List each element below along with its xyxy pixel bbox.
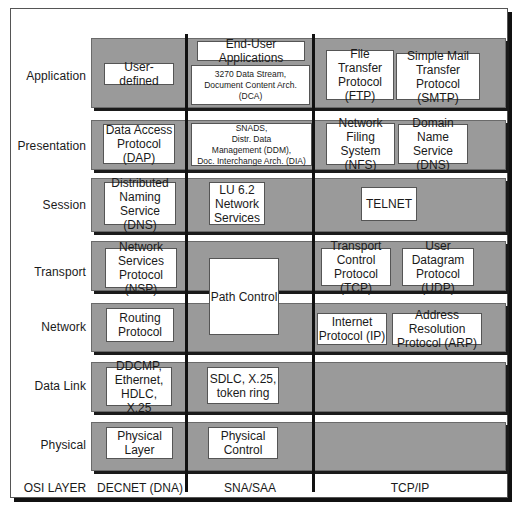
decnet-physical: Physical Layer: [106, 427, 173, 459]
tcpip-dns: Domain Name Service (DNS): [398, 124, 468, 164]
footer-tcpip: TCP/IP: [360, 481, 460, 495]
tcpip-udp: User Datagram Protocol (UDP): [402, 248, 474, 286]
sna-datalink: SDLC, X.25, token ring: [207, 367, 279, 404]
tcpip-tcp: Transport Control Protocol (TCP): [321, 248, 391, 286]
tcpip-ftp: File Transfer Protocol (FTP): [326, 50, 394, 100]
decnet-nsp: Network Services Protocol (NSP): [105, 248, 177, 288]
osi-label-datalink: Data Link: [14, 379, 86, 393]
footer-osi-layer: OSI LAYER: [20, 481, 90, 495]
decnet-dap: Data Access Protocol (DAP): [103, 124, 175, 164]
tcpip-telnet: TELNET: [361, 187, 417, 221]
sna-lu62: LU 6.2 Network Services: [209, 182, 265, 225]
osi-label-presentation: Presentation: [14, 139, 86, 153]
decnet-datalink: DDCMP, Ethernet, HDLC, X.25: [106, 367, 172, 406]
divider-sna-tcpip: [312, 34, 315, 492]
sna-snads-ddm-dia: SNADS, Distr. Data Management (DDM), Doc…: [191, 123, 312, 166]
decnet-routing: Routing Protocol: [106, 308, 174, 342]
tcpip-arp: Address Resolution Protocol (ARP): [392, 313, 482, 345]
footer-decnet: DECNET (DNA): [96, 481, 184, 495]
tcpip-ip: Internet Protocol (IP): [317, 313, 387, 345]
footer-sna: SNA/SAA: [200, 481, 300, 495]
sna-3270-dca: 3270 Data Stream, Document Content Arch.…: [191, 65, 310, 105]
divider-decnet-sna: [185, 34, 188, 492]
decnet-dns: Distributed Naming Service (DNS): [104, 182, 176, 225]
osi-label-network: Network: [14, 320, 86, 334]
osi-label-session: Session: [14, 198, 86, 212]
sna-path-control: Path Control: [209, 258, 279, 335]
tcpip-smtp: Simple Mail Transfer Protocol (SMTP): [396, 53, 480, 100]
decnet-user-defined: User-defined: [104, 63, 174, 85]
sna-physical: Physical Control: [208, 427, 278, 459]
osi-label-physical: Physical: [14, 438, 86, 452]
sna-end-user-apps: End-User Applications: [197, 41, 305, 61]
osi-label-transport: Transport: [14, 265, 86, 279]
tcpip-nfs: Network Filing System (NFS): [326, 123, 395, 165]
osi-label-application: Application: [14, 69, 86, 83]
